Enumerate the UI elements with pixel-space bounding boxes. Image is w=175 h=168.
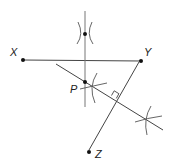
label-p: P xyxy=(70,84,77,95)
compass-arc-p-horizontal xyxy=(80,83,107,89)
point-top-intersection xyxy=(83,32,87,36)
point-x xyxy=(21,58,25,62)
label-y: Y xyxy=(144,47,151,58)
perpendicular-line xyxy=(56,64,163,130)
construction-diagram: X Y P Z xyxy=(0,0,175,168)
segment-xy xyxy=(23,60,141,61)
label-z: Z xyxy=(95,149,102,160)
compass-arc-top-right xyxy=(89,22,93,44)
right-angle-marker xyxy=(112,91,119,99)
point-y xyxy=(139,59,143,63)
label-x: X xyxy=(10,47,17,58)
point-p xyxy=(83,80,87,84)
compass-arc-top-left xyxy=(77,22,81,44)
segment-yz xyxy=(89,62,139,150)
point-z xyxy=(87,150,91,154)
diagram-svg xyxy=(0,0,175,168)
